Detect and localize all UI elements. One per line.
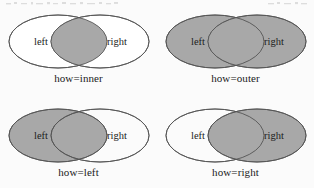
- caption-outer: how=outer: [157, 72, 314, 84]
- right-label: right: [107, 130, 127, 141]
- venn-figure: left right how=inner left: [0, 0, 314, 188]
- left-label: left: [191, 130, 205, 141]
- venn-grid: left right how=inner left: [0, 0, 314, 188]
- right-label: right: [107, 36, 127, 47]
- right-label: right: [264, 36, 284, 47]
- caption-right: how=right: [157, 166, 314, 178]
- left-label: left: [34, 130, 48, 141]
- venn-cell-inner: left right how=inner: [0, 0, 157, 94]
- right-label: right: [264, 130, 284, 141]
- caption-inner: how=inner: [0, 72, 157, 84]
- left-label: left: [191, 36, 205, 47]
- venn-cell-outer: left right how=outer: [157, 0, 314, 94]
- venn-cell-right: left right how=right: [157, 94, 314, 188]
- left-label: left: [34, 36, 48, 47]
- caption-left: how=left: [0, 166, 157, 178]
- venn-cell-left: left right how=left: [0, 94, 157, 188]
